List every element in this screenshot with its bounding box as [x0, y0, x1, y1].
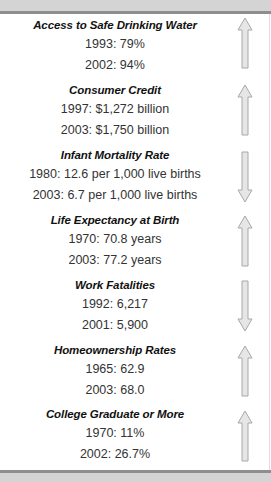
- top-band: [0, 0, 271, 11]
- indicator-value-end: 2003: 77.2 years: [0, 250, 230, 271]
- indicator-value-start: 1970: 11%: [0, 423, 230, 444]
- up-arrow-icon: [236, 345, 254, 397]
- indicator-college-graduate: College Graduate or More 1970: 11% 2002:…: [0, 406, 230, 465]
- indicator-value-start: 1992: 6,217: [0, 294, 230, 315]
- indicator-value-end: 2001: 5,900: [0, 315, 230, 336]
- right-border: [269, 14, 270, 470]
- indicator-value-end: 2003: 6.7 per 1,000 live births: [0, 185, 230, 206]
- indicator-title: Life Expectancy at Birth: [0, 212, 230, 229]
- indicator-infant-mortality: Infant Mortality Rate 1980: 12.6 per 1,0…: [0, 147, 230, 206]
- up-arrow-icon: [236, 410, 254, 462]
- up-arrow-icon: [236, 215, 254, 267]
- indicator-value-start: 1965: 62.9: [0, 359, 230, 380]
- indicator-safe-drinking-water: Access to Safe Drinking Water 1993: 79% …: [0, 17, 230, 76]
- indicator-title: Consumer Credit: [0, 82, 230, 99]
- down-arrow-icon: [236, 280, 254, 332]
- indicator-value-end: 2003: 68.0: [0, 380, 230, 401]
- indicator-life-expectancy: Life Expectancy at Birth 1970: 70.8 year…: [0, 212, 230, 271]
- indicator-value-start: 1970: 70.8 years: [0, 229, 230, 250]
- indicator-homeownership: Homeownership Rates 1965: 62.9 2003: 68.…: [0, 342, 230, 401]
- indicator-value-end: 2002: 26.7%: [0, 444, 230, 465]
- indicator-title: Work Fatalities: [0, 277, 230, 294]
- indicator-value-start: 1980: 12.6 per 1,000 live births: [0, 164, 230, 185]
- up-arrow-icon: [236, 17, 254, 69]
- indicator-value-start: 1997: $1,272 billion: [0, 99, 230, 120]
- down-arrow-icon: [236, 151, 254, 203]
- top-divider: [0, 11, 271, 14]
- indicator-value-end: 2002: 94%: [0, 55, 230, 76]
- indicator-title: College Graduate or More: [0, 406, 230, 423]
- indicator-title: Infant Mortality Rate: [0, 147, 230, 164]
- indicator-value-start: 1993: 79%: [0, 34, 230, 55]
- indicator-title: Homeownership Rates: [0, 342, 230, 359]
- indicator-work-fatalities: Work Fatalities 1992: 6,217 2001: 5,900: [0, 277, 230, 336]
- indicator-consumer-credit: Consumer Credit 1997: $1,272 billion 200…: [0, 82, 230, 141]
- indicator-title: Access to Safe Drinking Water: [0, 17, 230, 34]
- bottom-band: [0, 473, 271, 482]
- indicator-value-end: 2003: $1,750 billion: [0, 120, 230, 141]
- up-arrow-icon: [236, 84, 254, 136]
